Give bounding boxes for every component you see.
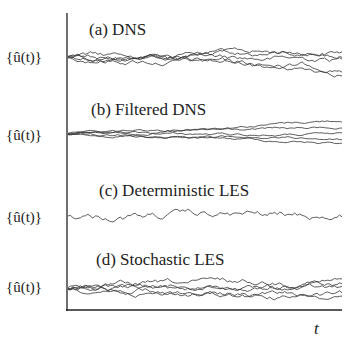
panel-a-ylabel: {û(t)} (6, 49, 42, 66)
figure: t (a) DNS {û(t)} (b) Filtered DNS {û(t)}… (0, 0, 354, 345)
panel-b: (b) Filtered DNS {û(t)} (6, 100, 342, 144)
panel-b-trace (68, 134, 342, 144)
panel-b-label: (b) Filtered DNS (91, 100, 206, 119)
panel-c-trace (68, 209, 342, 222)
panel-c-label: (c) Deterministic LES (99, 181, 249, 200)
panel-d-trace (68, 278, 342, 291)
panel-d-ylabel: {û(t)} (6, 279, 42, 296)
panel-a: (a) DNS {û(t)} (6, 20, 342, 77)
panel-c: (c) Deterministic LES {û(t)} (6, 181, 342, 226)
panel-c-ylabel: {û(t)} (6, 209, 42, 226)
panel-d: (d) Stochastic LES {û(t)} (6, 250, 342, 300)
panel-d-label: (d) Stochastic LES (96, 250, 224, 269)
x-axis-label: t (314, 319, 320, 338)
panel-b-ylabel: {û(t)} (6, 127, 42, 144)
panel-a-label: (a) DNS (89, 20, 146, 39)
